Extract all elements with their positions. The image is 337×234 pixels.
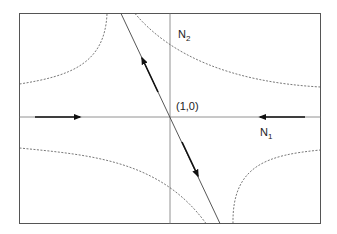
trajectory-top-right bbox=[135, 14, 321, 88]
unstable-manifold bbox=[121, 14, 220, 224]
n2-label: N2 bbox=[178, 29, 190, 43]
trajectory-top-left bbox=[20, 14, 108, 85]
phase-portrait bbox=[0, 0, 337, 234]
lower-arrow bbox=[182, 142, 198, 176]
trajectory-bottom-left bbox=[20, 148, 207, 224]
n1-label: N1 bbox=[260, 127, 272, 141]
fixed-point-label: (1,0) bbox=[176, 101, 199, 112]
upper-arrow bbox=[142, 58, 158, 92]
trajectory-bottom-right bbox=[233, 150, 321, 224]
